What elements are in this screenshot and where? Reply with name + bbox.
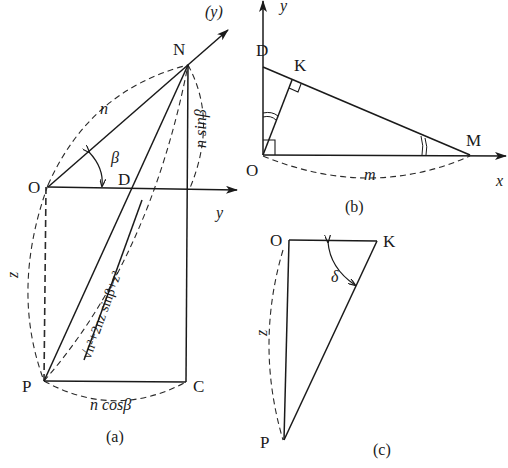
line-dm <box>263 67 470 155</box>
point-o-c: O <box>270 231 282 250</box>
line-pc <box>44 381 186 382</box>
line-ok-c <box>289 240 377 241</box>
figure-b: D K O M y x m (b) <box>246 0 506 216</box>
figure-a: O N D P C (y) y n β n sinβ z n cosβ √n²+… <box>4 3 237 446</box>
arc-z-c <box>269 250 283 440</box>
figure-c: O K P δ z (c) <box>253 231 396 459</box>
point-k-c: K <box>383 232 396 251</box>
caption-c: (c) <box>373 441 391 459</box>
label-m: m <box>364 166 376 183</box>
line-nc <box>186 65 188 382</box>
caption-b: (b) <box>345 198 364 216</box>
axis-label-y-paren: (y) <box>205 3 223 21</box>
label-n: n <box>100 100 108 117</box>
line-np <box>44 65 188 381</box>
label-delta: δ <box>331 268 339 285</box>
point-d-a: D <box>118 170 130 189</box>
caption-a: (a) <box>106 428 124 446</box>
beta-angle-arc <box>89 152 102 186</box>
angle-arc-o-2 <box>263 116 276 120</box>
point-p-a: P <box>22 377 31 396</box>
line-ok <box>263 80 292 155</box>
axis-y-paren <box>48 30 228 187</box>
right-angle-o <box>263 140 275 155</box>
angle-arc-o-1 <box>263 112 278 116</box>
point-o-b: O <box>246 161 258 180</box>
label-n-cos-beta: n cosβ <box>90 396 131 414</box>
dashed-op <box>44 187 46 381</box>
point-k-b: K <box>294 56 307 75</box>
label-beta: β <box>110 149 119 167</box>
point-p-c: P <box>260 433 269 452</box>
diagram-canvas: O N D P C (y) y n β n sinβ z n cosβ √n²+… <box>0 0 508 468</box>
point-n: N <box>173 40 185 59</box>
axis-label-y-b: y <box>278 0 288 15</box>
axis-label-y-a: y <box>214 204 224 222</box>
angle-arc-m-2 <box>425 138 427 155</box>
point-o-a: O <box>28 178 40 197</box>
axis-label-x-b: x <box>495 172 503 189</box>
point-c: C <box>193 377 204 396</box>
line-op-c <box>284 240 289 440</box>
label-z-a: z <box>4 271 21 279</box>
label-z-c: z <box>253 329 270 337</box>
point-d-b: D <box>256 41 268 60</box>
label-diagonal: √n²+2nz sinβ+z² <box>79 269 125 361</box>
axis-y <box>48 187 237 190</box>
right-angle-k <box>289 84 301 92</box>
point-m: M <box>466 131 481 150</box>
label-n-sin-beta: n sinβ <box>192 109 210 148</box>
angle-arc-m-1 <box>421 136 423 155</box>
